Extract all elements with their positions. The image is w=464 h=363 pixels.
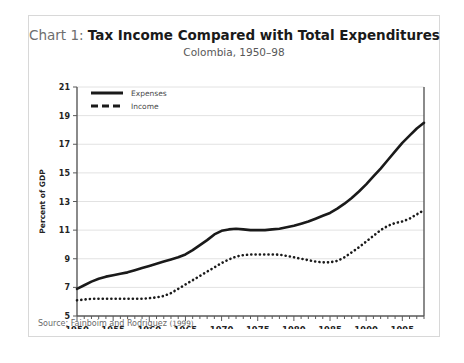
y-axis-tick-label: 9 (64, 255, 70, 264)
y-axis-tick-label: 15 (59, 169, 71, 178)
chart-source-note: Source: Fainboim and Rodriguez (1999) (38, 319, 194, 328)
series-line-expenses (77, 123, 424, 289)
y-axis-title: Percent of GDP (38, 169, 47, 234)
source-year: (1999) (169, 319, 193, 328)
x-axis-tick-label: 1975 (246, 325, 270, 329)
y-axis-tick-label: 7 (64, 283, 70, 292)
chart-title: Chart 1: Tax Income Compared with Total … (29, 27, 439, 44)
y-axis-tick-label: 21 (59, 83, 71, 92)
series-line-income (77, 210, 424, 300)
chart-card: Chart 1: Tax Income Compared with Total … (28, 15, 440, 337)
x-axis-tick-label: 1980 (282, 325, 306, 329)
source-label: Source: Fainboim and Rodriguez (38, 319, 169, 328)
chart-title-main: Tax Income Compared with Total Expenditu… (88, 27, 440, 43)
chart-plot-area: 5791113151719211950195519601965197019751… (29, 71, 439, 329)
x-axis-tick-label: 1970 (210, 325, 234, 329)
y-axis-tick-label: 13 (59, 198, 70, 207)
y-axis-tick-label: 19 (59, 112, 71, 121)
legend-label-expenses: Expenses (131, 89, 167, 98)
x-axis-tick-label: 1990 (354, 325, 378, 329)
y-axis-tick-label: 11 (59, 226, 71, 235)
chart-svg: 5791113151719211950195519601965197019751… (29, 71, 439, 329)
legend-label-income: Income (131, 102, 159, 111)
x-axis-tick-label: 1985 (318, 325, 342, 329)
x-axis-tick-label: 1995 (390, 325, 414, 329)
y-axis-tick-label: 17 (59, 140, 70, 149)
chart-title-prefix: Chart 1: (29, 27, 88, 43)
chart-subtitle: Colombia, 1950–98 (29, 46, 439, 58)
